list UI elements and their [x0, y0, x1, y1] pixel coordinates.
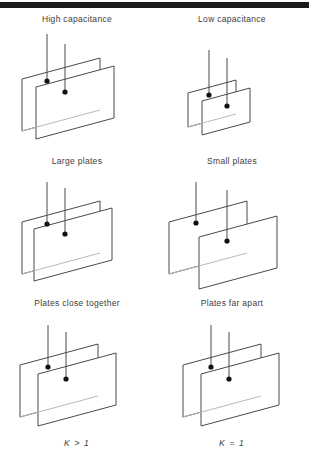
capacitor-small-plates [155, 32, 309, 152]
capacitor-plates-far [155, 182, 309, 294]
caption-plates-close: Plates close together [0, 298, 154, 308]
capacitor-k-equals-one [155, 322, 309, 434]
terminal-dot [62, 231, 67, 236]
terminal-dot [206, 92, 211, 97]
caption-large-plates: Large plates [0, 156, 154, 166]
capacitance-figure: High capacitance [0, 8, 309, 461]
heading-high-capacitance: High capacitance [0, 14, 154, 24]
terminal-dot [208, 364, 213, 369]
caption-small-plates: Small plates [155, 156, 309, 166]
cell-dielectric-k-equal: K = 1 [155, 320, 309, 461]
heading-low-capacitance: Low capacitance [155, 14, 309, 24]
terminal-dot [44, 78, 49, 83]
terminal-dot [62, 89, 67, 94]
caption-k-equals-one: K = 1 [155, 438, 309, 448]
caption-plates-far: Plates far apart [155, 298, 309, 308]
cell-dielectric-k-greater: K > 1 [0, 320, 154, 461]
cell-small-plates: Low capacitance Small plates [155, 8, 309, 180]
capacitor-plates-close [0, 182, 154, 294]
cell-large-plates: High capacitance [0, 8, 154, 180]
terminal-dot [193, 220, 198, 225]
caption-k-greater-than-one: K > 1 [0, 438, 154, 448]
capacitor-large-plates [0, 32, 154, 152]
terminal-dot [224, 103, 229, 108]
terminal-dot [224, 238, 229, 243]
terminal-dot [63, 376, 68, 381]
capacitor-k-greater-than-one [0, 322, 154, 434]
cell-plates-far: Plates far apart [155, 180, 309, 320]
terminal-dot [44, 221, 49, 226]
terminal-dot [226, 376, 231, 381]
terminal-dot [45, 364, 50, 369]
cell-plates-close: Plates close together [0, 180, 154, 320]
